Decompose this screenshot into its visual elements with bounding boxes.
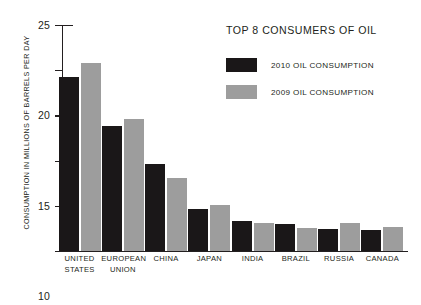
bar [318,229,338,251]
bar [275,224,295,251]
legend-label-2010: 2010 OIL CONSUMPTION [271,61,374,70]
bar [361,230,381,251]
bar [210,205,230,251]
chart-legend: 2010 OIL CONSUMPTION 2009 OIL CONSUMPTIO… [226,54,416,108]
bar [124,119,144,251]
bar-group [102,25,144,251]
x-axis-category-label: BRAZIL [274,254,317,265]
legend-label-2009: 2009 OIL CONSUMPTION [271,88,374,97]
x-axis-category-label: INDIA [231,254,274,265]
legend-item-2009: 2009 OIL CONSUMPTION [226,81,416,103]
y-axis-tick-label: 15 [38,200,50,212]
bar [102,126,122,251]
y-axis-tick-label: 10 [38,290,50,302]
x-axis-category-label: CANADA [361,254,404,265]
legend-item-2010: 2010 OIL CONSUMPTION [226,54,416,76]
x-axis-line [62,251,408,252]
bar [188,209,208,251]
legend-swatch-2010 [226,58,257,72]
bar [59,77,79,251]
bar-group [188,25,230,251]
bar-group [145,25,187,251]
bar [167,178,187,251]
x-axis-category-label: CHINA [145,254,188,265]
bar-chart: CONSUMPTION IN MILLIONS OF BARRELS PER D… [0,0,421,305]
bar-group [59,25,101,251]
x-axis-category-labels: UNITEDSTATESEUROPEANUNIONCHINAJAPANINDIA… [62,254,408,294]
y-axis-title: CONSUMPTION IN MILLIONS OF BARRELS PER D… [22,23,31,243]
bar [340,223,360,251]
x-axis-category-label: EUROPEANUNION [101,254,144,275]
y-axis-tick-label: 25 [38,19,50,31]
bar [383,227,403,251]
bar [232,221,252,251]
bar [254,223,274,251]
bar [145,164,165,251]
y-axis-tick-label: 20 [38,109,50,121]
bar [81,63,101,251]
x-axis-category-label: JAPAN [188,254,231,265]
legend-swatch-2009 [226,85,257,99]
bar [297,228,317,251]
y-axis-tick: 0 [55,251,62,252]
chart-title: TOP 8 CONSUMERS OF OIL [226,24,377,36]
x-axis-category-label: UNITEDSTATES [58,254,101,275]
x-axis-category-label: RUSSIA [318,254,361,265]
